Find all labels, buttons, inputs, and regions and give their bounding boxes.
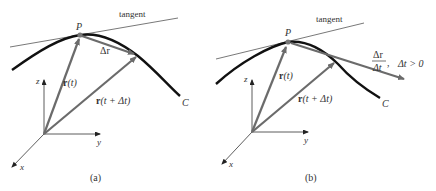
curve-c — [12, 34, 180, 96]
caption-a: (a) — [90, 172, 101, 184]
caption-b: (b) — [305, 172, 317, 184]
x-axis — [12, 134, 44, 167]
ratio-label: Δr Δt , — [372, 49, 390, 73]
vector-r-t — [252, 47, 286, 132]
r-t-dt-label: r(t + Δt) — [96, 95, 131, 107]
point-label: P — [284, 27, 291, 38]
point-p — [285, 39, 290, 44]
z-axis-label: z — [35, 76, 40, 86]
tangent-line — [10, 18, 178, 47]
tangent-label: tangent — [316, 14, 343, 24]
panel-a: tangent C P z y x Δr r(t) r(t + Δt) (a) — [10, 9, 189, 184]
r-t-label: r(t) — [279, 70, 294, 82]
svg-text:Δt: Δt — [372, 62, 382, 73]
curve-c — [216, 42, 380, 98]
y-axis-label: y — [96, 137, 101, 147]
delta-r-label: Δr — [100, 45, 110, 56]
r-t-dt-label: r(t + Δt) — [298, 93, 333, 105]
curve-label: C — [382, 98, 389, 109]
curve-label: C — [182, 97, 189, 108]
z-axis-label: z — [243, 74, 248, 84]
x-axis-label: x — [228, 159, 233, 169]
condition-label: Δt > 0 — [397, 58, 423, 69]
svg-text:Δr: Δr — [373, 49, 383, 60]
svg-text:,: , — [387, 57, 390, 68]
tangent-label: tangent — [119, 9, 146, 19]
x-axis — [222, 132, 252, 164]
point-label: P — [75, 21, 82, 32]
y-axis-label: y — [303, 135, 308, 145]
panel-b: tangent C P z y x Δr Δt , Δt > 0 r(t) r(… — [216, 14, 423, 184]
x-axis-label: x — [19, 162, 24, 172]
diagram-canvas: tangent C P z y x Δr r(t) r(t + Δt) (a) — [0, 0, 436, 191]
r-t-label: r(t) — [63, 77, 78, 89]
